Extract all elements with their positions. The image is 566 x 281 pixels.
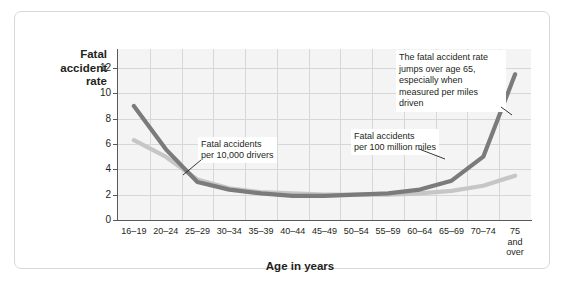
x-tick-label: 75 and over — [499, 226, 531, 258]
x-tick-label: 55–59 — [372, 226, 404, 237]
x-tick-label: 60–64 — [404, 226, 436, 237]
x-tick-label: 40–44 — [277, 226, 309, 237]
y-tick-mark — [113, 119, 117, 120]
y-tick-mark — [113, 220, 117, 221]
leader-line — [183, 160, 201, 175]
x-tick-label: 65–69 — [436, 226, 468, 237]
x-tick-label: 50–54 — [340, 226, 372, 237]
y-tick-mark — [113, 144, 117, 145]
x-tick-label: 45–49 — [309, 226, 341, 237]
x-tick-label: 30–34 — [213, 226, 245, 237]
y-tick-mark — [113, 169, 117, 170]
leader-line — [501, 107, 512, 115]
x-tick-label: 70–74 — [467, 226, 499, 237]
y-tick-mark — [113, 195, 117, 196]
y-tick-mark — [113, 93, 117, 94]
x-tick-label: 16–19 — [118, 226, 150, 237]
y-tick-mark — [113, 68, 117, 69]
x-tick-label: 20–24 — [150, 226, 182, 237]
x-tick-label: 25–29 — [182, 226, 214, 237]
chart-figure: Fatal accident rate 024681012 Age in yea… — [14, 11, 550, 269]
x-tick-label: 35–39 — [245, 226, 277, 237]
leader-line — [419, 149, 445, 159]
